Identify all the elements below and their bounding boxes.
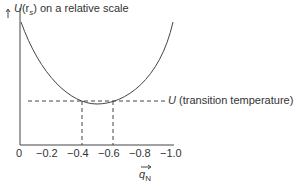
x-tick: 0 — [16, 147, 22, 159]
x-tick: −0.8 — [129, 147, 151, 159]
threshold-label: U (transition temperature) — [168, 94, 293, 106]
y-label-tail: ) on a relative scale — [33, 2, 128, 14]
threshold-symbol: U — [168, 94, 176, 106]
x-tick: −0.4 — [67, 147, 89, 159]
y-axis-label: U(rs) on a relative scale — [14, 2, 129, 17]
x-tick: −1.0 — [160, 147, 182, 159]
threshold-text: (transition temperature) — [179, 94, 293, 106]
x-axis-label: qN — [139, 168, 151, 183]
curve — [21, 22, 173, 104]
x-tick: −0.6 — [98, 147, 120, 159]
x-label-sub: N — [145, 174, 151, 183]
x-tick: −0.2 — [36, 147, 58, 159]
y-label-symbol: U — [14, 2, 22, 14]
